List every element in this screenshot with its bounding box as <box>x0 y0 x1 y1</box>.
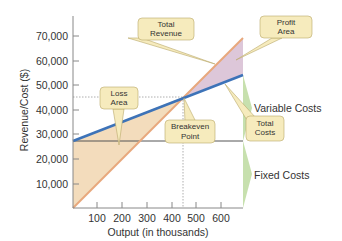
y-axis-label: Revenue/Cost ($) <box>18 69 30 151</box>
svg-text:Loss: Loss <box>111 89 128 98</box>
y-tick-label: 20,000 <box>36 153 68 165</box>
x-tick-label: 100 <box>88 212 106 224</box>
y-tick-label: 70,000 <box>36 30 68 42</box>
svg-text:Area: Area <box>111 98 128 107</box>
y-tick-label: 40,000 <box>36 104 68 116</box>
svg-text:Profit: Profit <box>277 18 296 27</box>
fixed-costs-label: Fixed Costs <box>254 169 309 181</box>
svg-text:Point: Point <box>181 132 200 141</box>
x-tick-label: 600 <box>212 212 230 224</box>
y-tick-label: 60,000 <box>36 55 68 67</box>
total-costs-line <box>73 75 243 141</box>
y-tick-label: 30,000 <box>36 128 68 140</box>
y-tick-label: 10,000 <box>36 178 68 190</box>
svg-text:Breakeven: Breakeven <box>171 122 209 131</box>
fixed-costs-brace <box>243 141 252 208</box>
svg-text:Area: Area <box>278 27 295 36</box>
svg-text:Revenue: Revenue <box>150 29 183 38</box>
y-tick-label: 50,000 <box>36 79 68 91</box>
x-tick-label: 400 <box>163 212 181 224</box>
total-revenue-line <box>73 38 243 208</box>
svg-text:Total: Total <box>158 20 175 29</box>
svg-text:Total: Total <box>257 119 274 128</box>
svg-text:Costs: Costs <box>255 128 275 137</box>
x-ticks <box>97 202 221 208</box>
variable-costs-label: Variable Costs <box>254 102 322 114</box>
total-revenue-callout: Total Revenue <box>128 18 215 64</box>
x-tick-label: 300 <box>138 212 156 224</box>
x-tick-label: 500 <box>187 212 205 224</box>
x-tick-label: 200 <box>113 212 131 224</box>
x-axis-label: Output (in thousands) <box>108 226 209 238</box>
breakeven-chart: 10,000 20,000 30,000 40,000 50,000 60,00… <box>0 0 342 241</box>
profit-area-callout: Profit Area <box>236 16 312 60</box>
